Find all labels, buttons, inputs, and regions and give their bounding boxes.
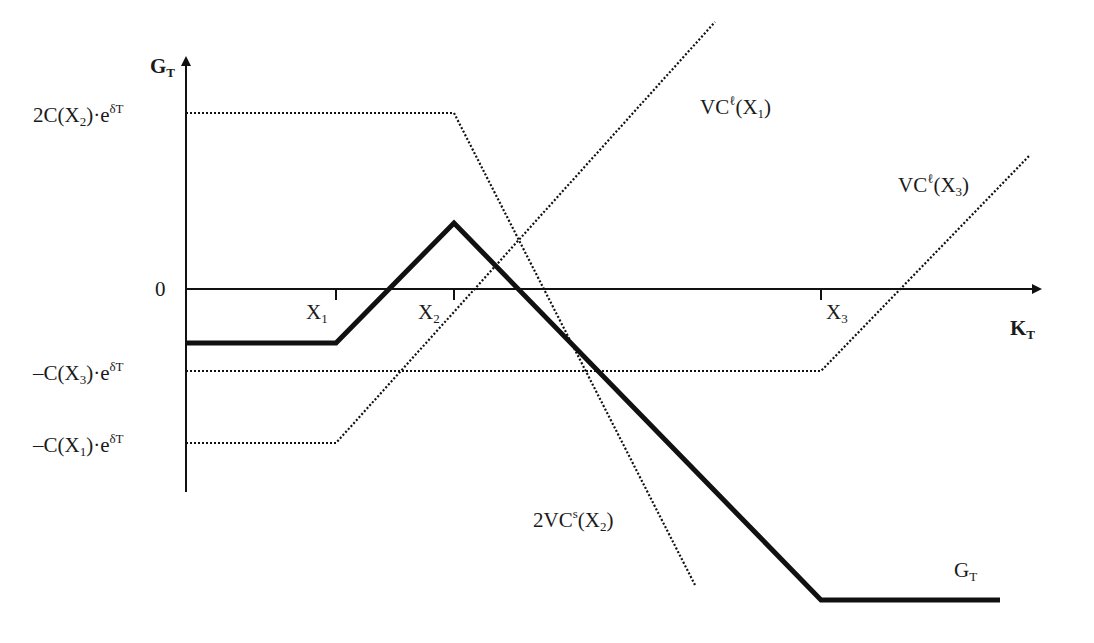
x-label-x1: X1 xyxy=(306,302,328,325)
curve-label-gt: GT xyxy=(954,560,977,583)
payoff-diagram xyxy=(0,0,1094,643)
y-label-2c-x2: 2C(X2)·eδT xyxy=(33,102,124,128)
curve-label-vc-long-x3: VCℓ(X3) xyxy=(898,172,969,198)
x-label-x3: X3 xyxy=(826,302,848,325)
curve-vc-long-x1 xyxy=(186,22,715,443)
y-label-neg-c-x1: –C(X1)·eδT xyxy=(33,432,124,458)
curve-gt xyxy=(186,223,1000,600)
curve-two-vc-short-x2 xyxy=(186,113,695,585)
y-label-zero: 0 xyxy=(155,279,166,300)
curve-label-two-vc-short-x2: 2VCs(X2) xyxy=(533,507,613,533)
y-axis-label: GT xyxy=(150,56,175,79)
curve-label-vc-long-x1: VCℓ(X1) xyxy=(700,94,771,120)
y-label-neg-c-x3: –C(X3)·eδT xyxy=(33,360,124,386)
x-axis-label: KT xyxy=(1010,318,1035,341)
x-label-x2: X2 xyxy=(418,302,440,325)
